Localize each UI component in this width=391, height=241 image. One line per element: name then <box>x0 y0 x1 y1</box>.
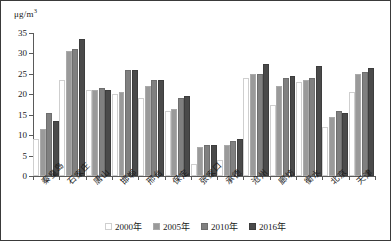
bar-group <box>322 33 348 176</box>
bar-group <box>165 33 191 176</box>
bar <box>329 117 335 176</box>
legend-label: 2000年 <box>115 220 142 233</box>
y-tick-label: 35 <box>18 28 27 38</box>
bar <box>250 74 256 176</box>
bar <box>303 80 309 176</box>
bar <box>138 98 144 176</box>
bar <box>119 92 125 176</box>
x-axis-labels: 秦皇岛石家庄唐山邯郸邢台保定张家口承德沧州廊坊衡水北京天津 <box>33 178 375 220</box>
legend-swatch-icon <box>201 223 208 230</box>
y-tick-label: 30 <box>18 48 27 58</box>
bar <box>171 109 177 176</box>
bar <box>243 78 249 176</box>
bar <box>79 39 85 176</box>
y-tick-label: 0 <box>23 171 28 181</box>
bar <box>342 113 348 176</box>
legend-item[interactable]: 2000年 <box>105 220 142 233</box>
x-tick-mark <box>375 176 376 180</box>
bar-group <box>349 33 375 176</box>
bar <box>355 74 361 176</box>
legend-item[interactable]: 2010年 <box>201 220 238 233</box>
bar <box>263 64 269 176</box>
bar <box>105 90 111 176</box>
chart-legend: 2000年2005年2010年2016年 <box>0 220 391 233</box>
y-tick-label: 10 <box>18 130 27 140</box>
bar <box>316 66 322 176</box>
bar <box>283 78 289 176</box>
bar <box>322 127 328 176</box>
legend-swatch-icon <box>105 223 112 230</box>
legend-label: 2005年 <box>163 220 190 233</box>
y-tick-label: 5 <box>23 151 28 161</box>
bar-group <box>59 33 85 176</box>
bar-group <box>191 33 217 176</box>
bar <box>72 49 78 176</box>
bar <box>40 129 46 176</box>
y-tick-label: 15 <box>18 110 27 120</box>
bar-group <box>112 33 138 176</box>
bar <box>191 164 197 176</box>
legend-swatch-icon <box>249 223 256 230</box>
bar-group <box>86 33 112 176</box>
bar-chart: μg/m3 05101520253035 秦皇岛石家庄唐山邯郸邢台保定张家口承德… <box>0 0 391 241</box>
bar <box>362 72 368 176</box>
y-axis-unit-exponent: 3 <box>34 7 37 14</box>
y-axis-unit-text: μg/m <box>14 9 34 19</box>
bar <box>349 92 355 176</box>
legend-swatch-icon <box>153 223 160 230</box>
bar <box>125 70 131 176</box>
y-axis-unit-label: μg/m3 <box>14 7 37 19</box>
bar-group <box>33 33 59 176</box>
bar-group <box>296 33 322 176</box>
bar <box>158 80 164 176</box>
legend-item[interactable]: 2016年 <box>249 220 286 233</box>
bar <box>66 51 72 176</box>
bar <box>92 90 98 176</box>
legend-label: 2010年 <box>211 220 238 233</box>
legend-label: 2016年 <box>259 220 286 233</box>
bar <box>368 68 374 176</box>
y-tick-label: 20 <box>18 89 27 99</box>
bar <box>145 86 151 176</box>
bar-group <box>270 33 296 176</box>
bar <box>132 70 138 176</box>
bar <box>309 78 315 176</box>
bar-group <box>243 33 269 176</box>
bar <box>290 76 296 176</box>
bar <box>112 94 118 176</box>
bar <box>165 111 171 176</box>
bar <box>99 88 105 176</box>
bar <box>296 82 302 176</box>
bar-groups <box>33 33 375 176</box>
plot-area: 05101520253035 <box>33 33 375 176</box>
bar <box>184 96 190 176</box>
bar <box>151 80 157 176</box>
bar <box>33 139 39 176</box>
bar-group <box>217 33 243 176</box>
bar <box>257 74 263 176</box>
bar-group <box>138 33 164 176</box>
bar <box>276 86 282 176</box>
bar <box>270 105 276 176</box>
y-tick-label: 25 <box>18 69 27 79</box>
legend-item[interactable]: 2005年 <box>153 220 190 233</box>
